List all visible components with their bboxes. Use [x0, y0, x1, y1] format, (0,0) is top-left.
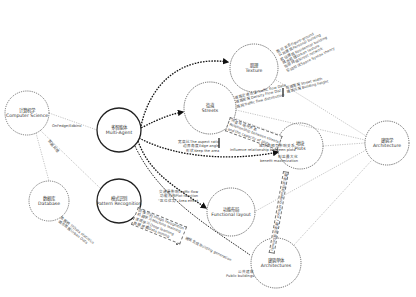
node-label-en: Database: [38, 201, 60, 206]
agent-aspect-notes: 宽高比The aspect ratio 边界角度Edge angle 形状Kee…: [178, 140, 219, 153]
marker-bars: [177, 88, 283, 245]
node-label-en: Plots: [294, 146, 305, 151]
node-computer-science[interactable]: 计算机学 Computer Science: [6, 108, 48, 118]
node-pattern-recognition[interactable]: 模式识别 Pattern Recognition: [96, 196, 141, 206]
node-label-en: Streets: [202, 108, 218, 113]
node-label-en: Architectures: [261, 263, 292, 268]
node-label-en: Texture: [246, 68, 263, 73]
functional-note: "区位优势" Area effect: [158, 199, 198, 203]
node-multi-agent[interactable]: 多智能体 Multi-Agent: [106, 125, 132, 135]
node-architecture[interactable]: 建筑学 Architecture: [373, 138, 401, 148]
public-buildings-en: Public buildings: [226, 274, 254, 278]
node-label-en: Architecture: [373, 143, 401, 148]
functional-note: 功能分布Plot function: [158, 194, 198, 198]
node-database[interactable]: 数据库 Database: [38, 196, 60, 206]
node-label-en: Multi-Agent: [106, 130, 132, 135]
node-streets[interactable]: 街道 Streets: [202, 103, 218, 113]
node-label-en: Pattern Recognition: [96, 201, 141, 206]
aspect-note: 形状Keep the area: [178, 149, 219, 153]
plots-benefit-notes: 利益最大化 benefit maximization: [260, 155, 298, 164]
functional-notes: 交通量影响Traffic flow 功能分布Plot function "区位优…: [158, 190, 198, 203]
benefit-note: benefit maximization: [260, 159, 298, 163]
plots-influence-notes: 地块间相互影响关系 Influence relationship between…: [230, 144, 295, 153]
aspect-note: 边界角度Edge angle: [178, 144, 219, 148]
node-functional-layout[interactable]: 功能布局 Functional layout: [211, 207, 250, 217]
node-architectures[interactable]: 建筑单体 Architectures: [261, 258, 292, 268]
influence-note: Influence relationship between plots: [230, 148, 295, 152]
public-buildings-label: 公共建筑 Public buildings: [226, 270, 254, 279]
node-plots[interactable]: 地块 Plots: [294, 141, 305, 151]
node-label-en: Functional layout: [211, 212, 250, 217]
edge-label-cs-agent: OnFedge/Edbino: [52, 124, 81, 128]
node-texture[interactable]: 肌理 Texture: [246, 63, 263, 73]
node-label-en: Computer Science: [6, 113, 48, 118]
